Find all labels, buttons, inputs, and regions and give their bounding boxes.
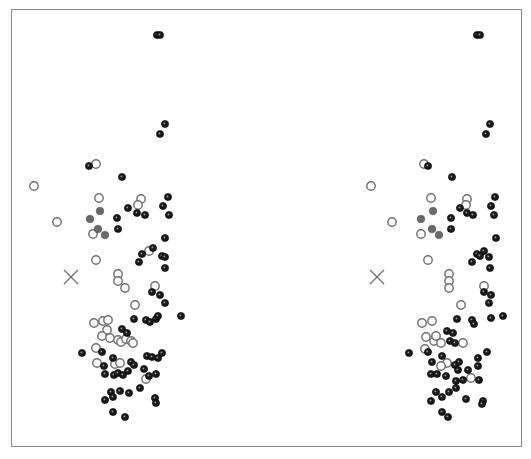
cross-marker-icon [64, 270, 78, 284]
point-highlight [148, 375, 150, 377]
open-atom-point [95, 194, 103, 202]
point-highlight [454, 342, 456, 344]
point-highlight [455, 380, 457, 382]
point-highlight [117, 372, 119, 374]
point-highlight [458, 361, 460, 363]
point-highlight [481, 403, 483, 405]
gray-atom-point [428, 225, 436, 233]
point-highlight [127, 207, 129, 209]
gray-atom-point [86, 215, 94, 223]
point-highlight [447, 416, 449, 418]
point-highlight [471, 319, 473, 321]
point-highlight [449, 340, 451, 342]
point-highlight [441, 396, 443, 398]
open-atom-point [417, 230, 425, 238]
point-highlight [122, 374, 124, 376]
point-highlight [101, 351, 103, 353]
point-highlight [431, 361, 433, 363]
open-atom-point [92, 256, 100, 264]
point-highlight [168, 214, 170, 216]
point-highlight [149, 321, 151, 323]
point-highlight [483, 291, 485, 293]
point-highlight [164, 237, 166, 239]
point-highlight [435, 391, 437, 393]
gray-atom-point [96, 207, 104, 215]
open-atom-point [459, 339, 467, 347]
point-highlight [450, 228, 452, 230]
point-highlight [408, 352, 410, 354]
point-highlight [473, 323, 475, 325]
point-highlight [161, 352, 163, 354]
open-atom-point [424, 256, 432, 264]
point-highlight [141, 253, 143, 255]
point-highlight [130, 361, 132, 363]
point-highlight [104, 399, 106, 401]
point-highlight [164, 302, 166, 304]
point-highlight [489, 123, 491, 125]
point-highlight [446, 330, 448, 332]
point-highlight [121, 328, 123, 330]
open-atom-point [104, 316, 112, 324]
point-highlight [479, 255, 481, 257]
point-highlight [430, 373, 432, 375]
point-highlight [448, 391, 450, 393]
point-highlight [180, 315, 182, 317]
open-atom-point [422, 333, 430, 341]
point-highlight [116, 217, 118, 219]
point-highlight [471, 261, 473, 263]
point-highlight [81, 352, 83, 354]
point-highlight [436, 373, 438, 375]
open-atom-point [428, 317, 436, 325]
point-highlight [164, 123, 166, 125]
point-highlight [441, 355, 443, 357]
point-highlight [452, 332, 454, 334]
point-highlight [490, 205, 492, 207]
point-highlight [477, 365, 479, 367]
point-highlight [119, 390, 121, 392]
point-highlight [167, 196, 169, 198]
point-highlight [490, 294, 492, 296]
point-highlight [478, 379, 480, 381]
point-highlight [494, 196, 496, 198]
open-atom-point [437, 339, 445, 347]
point-highlight [133, 318, 135, 320]
open-atom-point [388, 218, 396, 226]
point-highlight [155, 402, 157, 404]
point-highlight [465, 398, 467, 400]
point-highlight [154, 397, 156, 399]
point-highlight [427, 351, 429, 353]
point-highlight [462, 379, 464, 381]
open-atom-point [467, 374, 475, 382]
point-highlight [472, 214, 474, 216]
open-atom-point [53, 218, 61, 226]
point-highlight [117, 228, 119, 230]
point-highlight [477, 357, 479, 359]
stereo-scatter-plot [0, 0, 531, 459]
gray-atom-point [101, 231, 109, 239]
point-highlight [138, 261, 140, 263]
gray-atom-point [429, 207, 437, 215]
point-highlight [457, 369, 459, 371]
open-atom-point [121, 284, 129, 292]
point-highlight [88, 165, 90, 167]
point-highlight [151, 356, 153, 358]
point-highlight [133, 364, 135, 366]
point-highlight [112, 396, 114, 398]
open-atom-point [367, 182, 375, 190]
point-highlight [112, 411, 114, 413]
point-highlight [146, 355, 148, 357]
point-highlight [164, 267, 166, 269]
open-atom-point [98, 332, 106, 340]
point-highlight [445, 375, 447, 377]
gray-atom-point [94, 225, 102, 233]
point-highlight [495, 237, 497, 239]
point-highlight [164, 256, 166, 258]
point-highlight [467, 369, 469, 371]
point-highlight [157, 315, 159, 317]
point-highlight [486, 351, 488, 353]
open-atom-point [131, 301, 139, 309]
point-highlight [110, 391, 112, 393]
open-atom-point [30, 182, 38, 190]
gray-atom-point [417, 215, 425, 223]
point-highlight [151, 291, 153, 293]
